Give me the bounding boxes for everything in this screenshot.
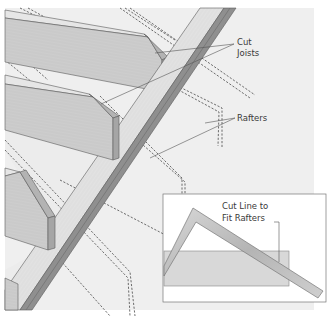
joist-rafter-diagram: Cut Joists Rafters Cut Line to Fit Rafte… bbox=[0, 0, 333, 316]
inset-caption-line2: Fit Rafters bbox=[222, 213, 265, 223]
inset-cut-line-detail: Cut Line to Fit Rafters bbox=[163, 194, 326, 302]
label-rafters: Rafters bbox=[237, 113, 268, 123]
joist-bottom-stub bbox=[5, 278, 18, 310]
inset-caption-line1: Cut Line to bbox=[222, 201, 268, 211]
label-cut-joists-line1: Cut bbox=[237, 37, 252, 47]
label-cut-joists-line2: Joists bbox=[236, 48, 260, 58]
